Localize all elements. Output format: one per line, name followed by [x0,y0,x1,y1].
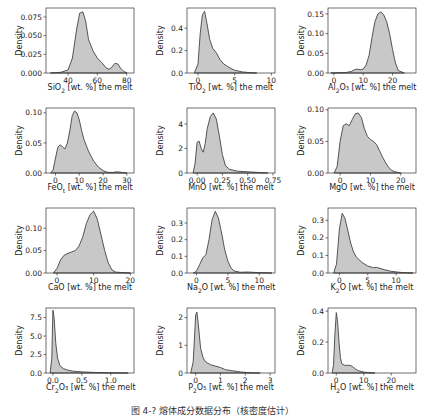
kde-panel-al2o3: 010200.000.050.100.15DensityAl2O₃ [wt. %… [282,0,423,100]
y-tick-label: 0.025 [21,50,43,59]
x-axis-label: P2O₅ [wt. %] the melt [141,383,275,394]
y-axis-label: Density [15,25,24,55]
y-axis-label: Density [15,225,24,255]
y-tick-label: 0.00 [25,169,42,178]
y-tick-label: 0.2 [171,235,183,244]
y-tick-label: 0.05 [307,49,324,58]
y-tick-label: 0.050 [21,31,43,40]
y-axis-label: Density [15,125,24,155]
y-axis-label: Density [297,125,306,155]
kde-curve [53,211,130,273]
y-axis-label: Density [156,225,165,255]
kde-curve [332,313,375,373]
y-tick-label: 0.2 [171,46,183,55]
kde-curve [50,310,128,373]
x-axis-label: FeOt [wt. %] the melt [0,183,134,194]
kde-curve [193,211,272,273]
kde-curve [334,213,414,273]
kde-curve [334,113,401,173]
y-tick-label: 4 [178,120,183,129]
y-tick-label: 0.2 [312,233,324,242]
y-tick-label: 0.1 [312,251,324,260]
y-tick-label: 0.05 [307,137,324,146]
y-axis-label: Density [297,325,306,355]
y-tick-label: 0.10 [307,29,324,38]
y-tick-label: 0.05 [25,139,42,148]
y-tick-label: 0.3 [171,219,183,228]
x-axis-label: H2O [wt. %] the melt [282,383,416,394]
y-tick-label: 0.000 [21,69,43,78]
x-axis-label: Na2O [wt. %] the melt [141,283,275,294]
y-tick-label: 7.5 [30,313,42,322]
x-axis-label: SiO2 [wt. %] the melt [0,83,134,94]
kde-curve [51,111,127,173]
x-axis-label: MnO [wt. %] the melt [141,183,275,194]
kde-panel-mno: 0.000.250.500.75024DensityMnO [wt. %] th… [141,100,282,200]
y-tick-label: 0 [178,369,183,378]
kde-curve [193,113,268,173]
x-axis-label: K2O [wt. %] the melt [282,283,416,294]
kde-panel-h2o: 010200.00.20.4DensityH2O [wt. %] the mel… [282,300,423,400]
y-axis-label: Density [156,125,165,155]
y-axis-label: Density [297,25,306,55]
x-axis-label: Al2O₃ [wt. %] the melt [282,83,416,94]
y-tick-label: 0.4 [312,307,324,316]
y-axis-label: Density [15,325,24,355]
kde-panel-p2o5: 0123012DensityP2O₅ [wt. %] the melt [141,300,282,400]
y-tick-label: 2 [178,313,183,322]
y-tick-label: 0.00 [307,69,324,78]
y-tick-label: 0.10 [25,108,42,117]
y-axis-label: Density [156,25,165,55]
kde-curve [50,12,126,73]
y-axis-label: Density [297,225,306,255]
y-tick-label: 0 [178,169,183,178]
kde-panel-k2o: 05100.00.10.20.3DensityK2O [wt. %] the m… [282,200,423,300]
x-axis-label: Cr2O₃ [wt. %] the melt [0,383,134,394]
y-tick-label: 0.0 [171,269,183,278]
kde-panel-cao: 010200.000.050.10DensityCaO [wt. %] the … [0,200,141,300]
kde-panel-feot: 01020300.000.050.10DensityFeOt [wt. %] t… [0,100,141,200]
y-tick-label: 0.2 [312,338,324,347]
y-tick-label: 0.0 [312,269,324,278]
kde-panel-na2o: 05100.00.10.20.3DensityNa2O [wt. %] the … [141,200,282,300]
y-tick-label: 1 [178,341,183,350]
y-tick-label: 0.15 [307,10,324,19]
x-axis-label: TiO2 [wt. %] the melt [141,83,275,94]
kde-curve [331,12,404,73]
y-axis-label: Density [156,325,165,355]
y-tick-label: 0.00 [25,269,42,278]
kde-panel-sio2: 4060800.0000.0250.0500.075DensitySiO2 [w… [0,0,141,100]
kde-panel-mgo: 010200.000.050.10DensityMgO [wt. %] the … [282,100,423,200]
y-tick-label: 0.00 [307,169,324,178]
y-tick-label: 0.10 [25,224,42,233]
y-tick-label: 0.10 [307,105,324,114]
kde-panel-tio2: 05100.00.20.4DensityTiO2 [wt. %] the mel… [141,0,282,100]
y-tick-label: 0.075 [21,13,43,22]
x-axis-label: MgO [wt. %] the melt [282,183,416,194]
y-tick-label: 0.4 [171,24,183,33]
kde-curve [191,312,260,373]
y-tick-label: 0.0 [312,369,324,378]
kde-panel-cr2o3: 0.00.51.00.02.55.07.5DensityCr2O₃ [wt. %… [0,300,141,400]
y-tick-label: 0.1 [171,252,183,261]
x-axis-label: CaO [wt. %] the melt [0,283,134,294]
figure-caption: 图 4-? 熔体成分数据分布（核密度估计） [0,404,425,417]
y-tick-label: 2.5 [30,350,42,359]
y-tick-label: 0.0 [30,369,42,378]
y-tick-label: 0.05 [25,246,42,255]
y-tick-label: 0.0 [171,69,183,78]
kde-curve [194,11,256,73]
y-tick-label: 0.3 [312,216,324,225]
y-tick-label: 5.0 [30,332,42,341]
y-tick-label: 2 [178,144,183,153]
